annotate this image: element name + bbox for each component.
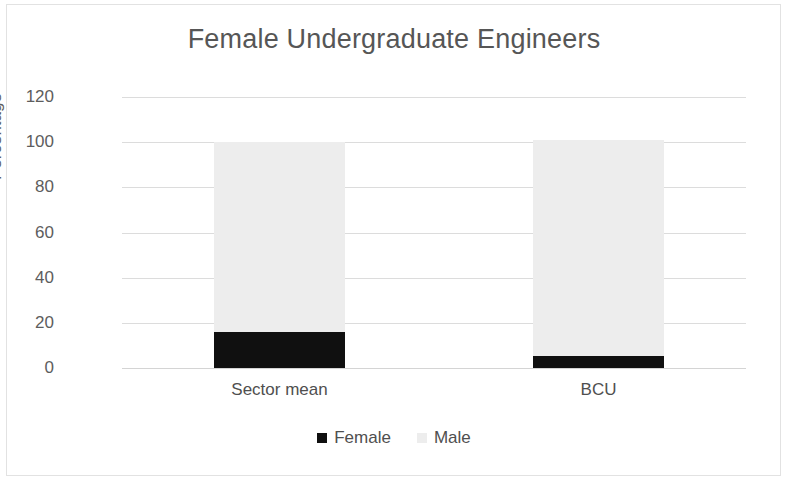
y-tick-label-20: 20 <box>0 313 54 333</box>
legend-item[interactable]: Female <box>317 428 391 448</box>
bar-column[interactable] <box>533 97 664 368</box>
x-tick-label: Sector mean <box>174 380 385 400</box>
y-tick-label-100: 100 <box>0 132 54 152</box>
legend-label: Female <box>334 428 391 448</box>
legend-swatch-icon <box>417 433 427 443</box>
chart-title: Female Undergraduate Engineers <box>0 24 788 55</box>
gridline-0 <box>122 368 746 369</box>
y-tick-label-40: 40 <box>0 268 54 288</box>
legend-swatch-icon <box>317 433 327 443</box>
bar-column[interactable] <box>214 97 345 368</box>
chart-legend: FemaleMale <box>0 428 788 448</box>
plot-area <box>122 97 746 368</box>
chart-screenshot: Female Undergraduate Engineers Percentag… <box>0 0 788 482</box>
bar-segment-male[interactable] <box>214 142 345 332</box>
bar-segment-female[interactable] <box>533 356 664 368</box>
x-tick-label: BCU <box>493 380 704 400</box>
y-tick-label-60: 60 <box>0 223 54 243</box>
y-tick-label-0: 0 <box>0 358 54 378</box>
legend-label: Male <box>434 428 471 448</box>
y-tick-label-120: 120 <box>0 87 54 107</box>
bar-segment-female[interactable] <box>214 332 345 368</box>
legend-item[interactable]: Male <box>417 428 471 448</box>
bar-segment-male[interactable] <box>533 140 664 356</box>
y-tick-label-80: 80 <box>0 177 54 197</box>
